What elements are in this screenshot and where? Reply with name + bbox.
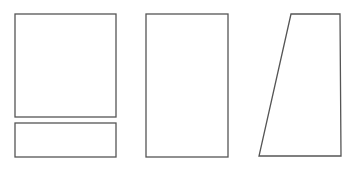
rect-tall-middle [146, 14, 228, 157]
shapes-diagram [0, 0, 359, 170]
rect-bottom-left [15, 123, 116, 157]
diagram-canvas [0, 0, 359, 170]
square-top-left [15, 14, 116, 117]
trapezoid-right [259, 14, 341, 156]
